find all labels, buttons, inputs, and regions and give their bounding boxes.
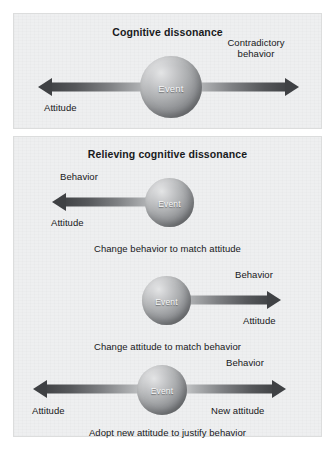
arrow-shaft bbox=[176, 385, 273, 394]
arrow-head bbox=[33, 380, 47, 398]
diagram-change-attitude: Event Behavior Attitude Change attitude … bbox=[14, 261, 321, 361]
sphere-label: Event bbox=[155, 297, 178, 307]
panel-cognitive-dissonance: Cognitive dissonance Event Attitude Cont… bbox=[13, 13, 322, 129]
sphere-event: Event bbox=[142, 276, 191, 325]
arrow-head bbox=[52, 193, 66, 211]
caption-change-attitude: Change attitude to match behavior bbox=[14, 341, 321, 352]
arrow-behavior-new-attitude-right bbox=[176, 380, 286, 398]
caption-change-behavior: Change behavior to match attitude bbox=[14, 243, 321, 254]
label-behavior: Behavior bbox=[235, 269, 273, 280]
sphere-label: Event bbox=[158, 199, 181, 209]
label-attitude: Attitude bbox=[51, 217, 84, 228]
label-attitude: Attitude bbox=[243, 315, 276, 326]
arrow-head bbox=[272, 380, 286, 398]
label-attitude: Attitude bbox=[44, 102, 77, 113]
sphere-event: Event bbox=[140, 56, 202, 118]
label-behavior: Behavior bbox=[226, 357, 264, 368]
diagram-adopt-new-attitude: Event Behavior Attitude New attitude Ado… bbox=[14, 348, 321, 448]
arrow-head bbox=[267, 291, 281, 309]
caption-adopt-new-attitude: Adopt new attitude to justify behavior bbox=[14, 427, 321, 438]
arrow-head bbox=[285, 78, 299, 96]
figure-canvas: Cognitive dissonance Event Attitude Cont… bbox=[0, 0, 335, 451]
label-behavior: Behavior bbox=[60, 171, 98, 182]
sphere-event: Event bbox=[145, 178, 194, 227]
panel-relieving-cognitive-dissonance: Relieving cognitive dissonance Event Beh… bbox=[13, 136, 322, 437]
arrow-head bbox=[38, 78, 52, 96]
arrow-attitude-left bbox=[33, 380, 153, 398]
sphere-label: Event bbox=[151, 386, 174, 396]
sphere-label: Event bbox=[158, 83, 183, 94]
label-contradictory-behavior: Contradictory behavior bbox=[210, 38, 302, 60]
label-attitude: Attitude bbox=[32, 405, 65, 416]
label-new-attitude: New attitude bbox=[211, 405, 264, 416]
diagram-change-behavior: Event Behavior Attitude Change behavior … bbox=[14, 163, 321, 263]
sphere-event: Event bbox=[137, 365, 187, 415]
panel-title-relieving-cognitive-dissonance: Relieving cognitive dissonance bbox=[14, 148, 321, 160]
